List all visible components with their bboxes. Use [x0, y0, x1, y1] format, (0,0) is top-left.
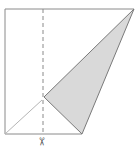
crease-line: [5, 100, 42, 134]
fold-diagram: [0, 0, 135, 152]
folded-triangle: [44, 9, 134, 134]
scissors-icon: ✂: [36, 137, 47, 146]
